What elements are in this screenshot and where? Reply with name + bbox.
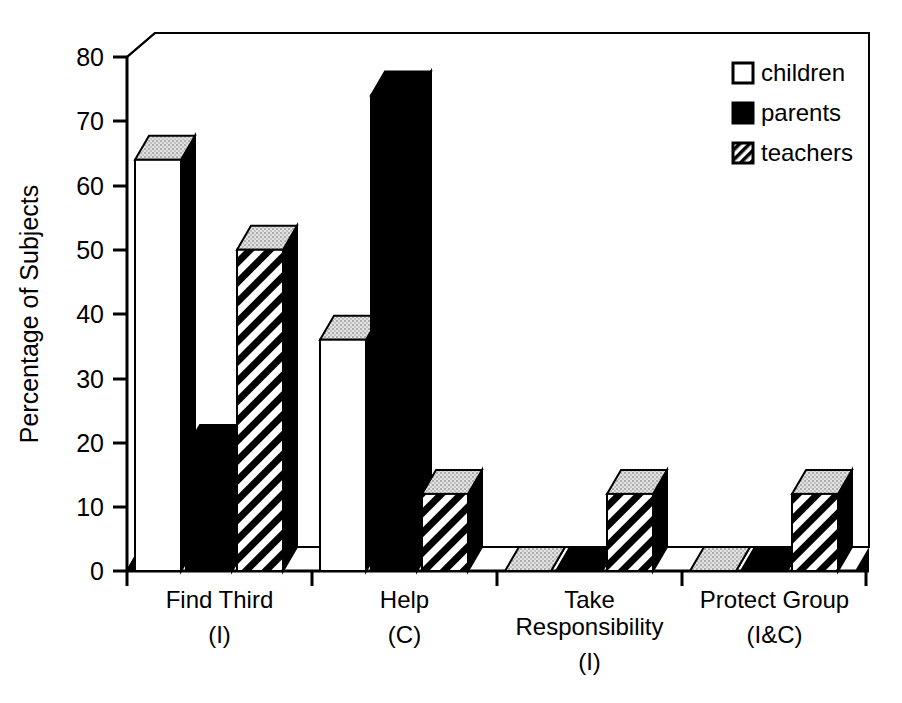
y-tick-label-80: 80 xyxy=(76,43,104,71)
legend-label-teachers: teachers xyxy=(761,139,853,166)
x-category-sublabel-3: (I&C) xyxy=(747,621,803,648)
bar-children-3 xyxy=(690,547,750,571)
x-category-label-3: Protect Group xyxy=(700,586,849,613)
y-axis-title: Percentage of Subjects xyxy=(15,185,43,444)
y-tick-label-20: 20 xyxy=(76,429,104,457)
y-axis-tick-labels: 0 10 20 30 40 50 60 70 80 xyxy=(76,43,104,585)
bar-teachers-0 xyxy=(237,226,297,571)
legend-swatch-parents xyxy=(733,103,753,123)
chart-figure: 0 10 20 30 40 50 60 70 80 Percentage of … xyxy=(0,0,902,703)
x-axis-category-labels: Find Third(I)Help(C)TakeResponsibility(I… xyxy=(166,586,850,675)
y-tick-label-50: 50 xyxy=(76,236,104,264)
legend-label-parents: parents xyxy=(761,99,841,126)
y-tick-label-70: 70 xyxy=(76,107,104,135)
x-category-label-2: Responsibility xyxy=(515,613,663,640)
y-tick-label-60: 60 xyxy=(76,172,104,200)
legend-label-children: children xyxy=(761,59,845,86)
bar-teachers-3 xyxy=(792,470,852,571)
bar-teachers-1 xyxy=(422,470,482,571)
legend-swatch-teachers xyxy=(733,143,753,163)
y-tick-label-10: 10 xyxy=(76,493,104,521)
y-axis-ticks xyxy=(113,57,127,571)
x-category-sublabel-1: (C) xyxy=(388,621,421,648)
y-tick-label-40: 40 xyxy=(76,300,104,328)
y-tick-label-0: 0 xyxy=(90,557,104,585)
bar-children-2 xyxy=(505,547,565,571)
x-category-sublabel-0: (I) xyxy=(208,621,231,648)
y-tick-label-30: 30 xyxy=(76,365,104,393)
x-axis-ticks xyxy=(127,571,866,586)
legend: children parents teachers xyxy=(733,59,853,166)
x-category-sublabel-2: (I) xyxy=(578,648,601,675)
x-category-label-1: Help xyxy=(380,586,429,613)
bar-teachers-2 xyxy=(607,470,667,571)
bar-chart-canvas: 0 10 20 30 40 50 60 70 80 Percentage of … xyxy=(0,0,902,703)
legend-swatch-children xyxy=(733,63,753,83)
x-category-label-2: Take xyxy=(564,586,615,613)
x-category-label-0: Find Third xyxy=(166,586,274,613)
